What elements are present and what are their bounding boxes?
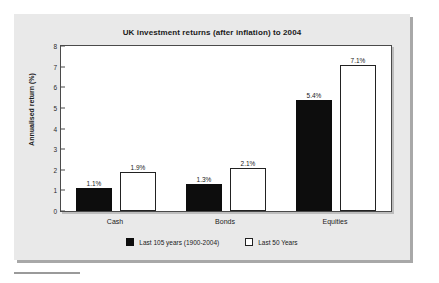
bar-value-label: 1.3% <box>197 176 212 183</box>
y-tick-label: 7 <box>53 63 61 70</box>
y-tick-label: 5 <box>53 104 61 111</box>
y-tick-label: 0 <box>53 208 61 215</box>
plot-area: 012345678 1.1%1.9%1.3%2.1%5.4%7.1% <box>60 45 392 212</box>
bar-value-label: 7.1% <box>351 57 366 64</box>
bar-equities-series1: 5.4% <box>296 100 332 211</box>
chart-legend: Last 105 years (1900-2004)Last 50 Years <box>14 238 410 246</box>
y-tick-label: 6 <box>53 84 61 91</box>
y-tick-label: 2 <box>53 166 61 173</box>
legend-item-2[interactable]: Last 50 Years <box>245 238 297 246</box>
bar-cash-series2: 1.9% <box>120 172 156 211</box>
bar-value-label: 1.1% <box>87 180 102 187</box>
y-tick-label: 8 <box>53 43 61 50</box>
y-tick-label: 1 <box>53 187 61 194</box>
footer-rule <box>14 272 80 274</box>
bar-value-label: 2.1% <box>241 160 256 167</box>
y-tick-label: 3 <box>53 146 61 153</box>
bar-series-container: 1.1%1.9%1.3%2.1%5.4%7.1% <box>61 46 391 211</box>
legend-label: Last 50 Years <box>258 239 297 246</box>
legend-swatch-icon <box>245 238 253 246</box>
bar-value-label: 1.9% <box>131 164 146 171</box>
bar-bonds-series2: 2.1% <box>230 168 266 211</box>
bar-cash-series1: 1.1% <box>76 188 112 211</box>
y-axis-title: Annualised return (%) <box>28 45 35 175</box>
chart-panel: UK investment returns (after inflation) … <box>14 14 410 260</box>
x-category-label-bonds: Bonds <box>215 218 235 225</box>
legend-swatch-icon <box>126 238 134 246</box>
bar-equities-series2: 7.1% <box>340 65 376 211</box>
y-tick-label: 4 <box>53 125 61 132</box>
legend-item-1[interactable]: Last 105 years (1900-2004) <box>126 238 219 246</box>
bar-value-label: 5.4% <box>307 92 322 99</box>
bar-bonds-series1: 1.3% <box>186 184 222 211</box>
x-category-label-equities: Equities <box>323 218 348 225</box>
x-category-label-cash: Cash <box>107 218 123 225</box>
chart-title: UK investment returns (after inflation) … <box>14 28 410 37</box>
legend-label: Last 105 years (1900-2004) <box>139 239 219 246</box>
